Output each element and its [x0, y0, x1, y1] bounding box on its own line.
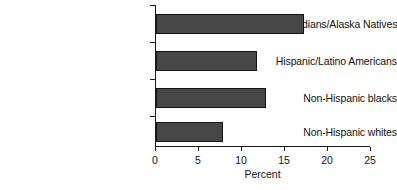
- bar-american-indians-alaska-natives: [156, 14, 304, 34]
- x-axis-title: Percent: [155, 168, 370, 180]
- bar-non-hispanic-blacks: [156, 88, 266, 108]
- y-axis-tick: [150, 42, 155, 43]
- x-axis-tick: [284, 147, 285, 151]
- x-axis-tick-label: 10: [235, 154, 247, 166]
- y-axis-tick: [150, 116, 155, 117]
- y-axis-tick: [150, 5, 155, 6]
- x-axis-tick-label: 5: [195, 154, 201, 166]
- x-axis-tick: [370, 147, 371, 151]
- x-axis-tick-label: 0: [152, 154, 158, 166]
- x-axis-tick: [155, 147, 156, 151]
- x-axis-tick: [241, 147, 242, 151]
- y-axis-tick: [150, 79, 155, 80]
- plot-area: 0 5 10 15 20 25: [155, 5, 370, 147]
- x-axis-tick-label: 15: [278, 154, 290, 166]
- x-axis-tick: [198, 147, 199, 151]
- bar-chart: American Indians/Alaska Natives Hispanic…: [0, 0, 397, 190]
- x-axis-tick: [327, 147, 328, 151]
- bar-non-hispanic-whites: [156, 122, 223, 142]
- x-axis-tick-label: 25: [364, 154, 376, 166]
- bar-hispanic-latino-americans: [156, 51, 257, 71]
- x-axis-tick-label: 20: [321, 154, 333, 166]
- x-axis-line: [155, 146, 370, 147]
